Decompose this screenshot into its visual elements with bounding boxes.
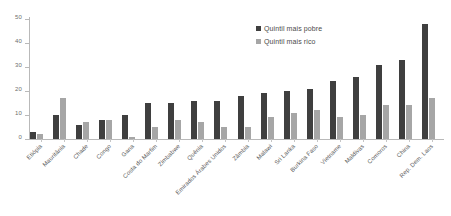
x-axis-tick-mark	[202, 139, 203, 142]
bar-quintil-mais-rico	[268, 117, 274, 139]
legend-swatch-icon	[256, 26, 261, 31]
x-axis-label: Congo	[95, 143, 112, 160]
x-axis-label: China	[396, 143, 412, 159]
bar-quintil-mais-rico	[106, 120, 112, 139]
bar-quintil-mais-pobre	[191, 101, 197, 139]
bar-quintil-mais-pobre	[145, 103, 151, 139]
legend-item: Quintil mais pobre	[256, 22, 386, 35]
bar-quintil-mais-pobre	[238, 96, 244, 139]
x-axis-tick-mark	[363, 139, 364, 142]
bar-quintil-mais-rico	[314, 110, 320, 139]
bar-quintil-mais-rico	[221, 127, 227, 139]
bar-quintil-mais-rico	[383, 105, 389, 139]
x-axis-label: Comoros	[367, 143, 389, 165]
legend-item: Quintil mais rico	[256, 35, 386, 48]
bar-quintil-mais-pobre	[261, 93, 267, 139]
bar-quintil-mais-pobre	[376, 65, 382, 139]
x-axis-tick-mark	[386, 139, 387, 142]
bar-group	[421, 14, 444, 139]
bar-quintil-mais-rico	[245, 127, 251, 139]
x-axis-tick-mark	[179, 139, 180, 142]
legend-label: Quintil mais pobre	[264, 25, 322, 32]
bar-quintil-mais-pobre	[30, 132, 36, 139]
x-axis-labels: EtiópiaMauritâniaChadeCongoGanaCosta do …	[29, 141, 444, 216]
bar-quintil-mais-pobre	[76, 125, 82, 139]
x-axis-tick-mark	[156, 139, 157, 142]
bar-group	[52, 14, 75, 139]
bar-quintil-mais-rico	[152, 127, 158, 139]
y-axis-tick-label: 40	[15, 38, 22, 44]
y-axis-tick-label: 20	[15, 86, 22, 92]
bar-quintil-mais-rico	[429, 98, 435, 139]
bar-quintil-mais-rico	[406, 105, 412, 139]
bar-quintil-mais-pobre	[214, 101, 220, 139]
x-axis-tick-mark	[409, 139, 410, 142]
x-axis-tick-mark	[110, 139, 111, 142]
bar-quintil-mais-pobre	[99, 120, 105, 139]
x-axis-tick-mark	[87, 139, 88, 142]
x-axis-label: Chade	[72, 143, 89, 160]
x-axis-label: Etiópia	[25, 143, 43, 161]
bar-quintil-mais-rico	[360, 115, 366, 139]
bar-group	[398, 14, 421, 139]
x-axis-tick-mark	[432, 139, 433, 142]
bar-quintil-mais-rico	[198, 122, 204, 139]
bar-quintil-mais-pobre	[122, 115, 128, 139]
legend-swatch-icon	[256, 39, 261, 44]
bar-group	[213, 14, 236, 139]
bar-quintil-mais-pobre	[168, 103, 174, 139]
x-axis-tick-mark	[317, 139, 318, 142]
x-axis-label: Zimbabwe	[157, 143, 181, 167]
bar-quintil-mais-pobre	[53, 115, 59, 139]
x-axis-tick-mark	[294, 139, 295, 142]
x-axis-tick-mark	[64, 139, 65, 142]
bar-quintil-mais-pobre	[330, 81, 336, 139]
x-axis-label: Zâmbia	[231, 143, 250, 162]
x-axis-label: Malawi	[255, 143, 273, 161]
x-axis-label: Gana	[120, 143, 135, 158]
bar-quintil-mais-pobre	[422, 24, 428, 139]
x-axis-tick-mark	[133, 139, 134, 142]
bar-quintil-mais-rico	[337, 117, 343, 139]
bar-group	[167, 14, 190, 139]
bar-quintil-mais-pobre	[284, 91, 290, 139]
x-axis-tick-mark	[271, 139, 272, 142]
y-axis-tick-label: 0	[18, 134, 22, 140]
x-axis-tick-mark	[340, 139, 341, 142]
y-axis-tick-label: 50	[15, 14, 22, 20]
y-axis-tick-label: 10	[15, 110, 22, 116]
y-axis-tick-label: 30	[15, 62, 22, 68]
bar-group	[98, 14, 121, 139]
bar-quintil-mais-rico	[175, 120, 181, 139]
bar-quintil-mais-pobre	[307, 89, 313, 139]
y-axis-tick-mark	[25, 139, 29, 140]
bar-group	[75, 14, 98, 139]
bar-quintil-mais-rico	[291, 113, 297, 139]
x-axis-label: Vietname	[320, 143, 343, 166]
x-axis-label: Maldivas	[344, 143, 366, 165]
bar-quintil-mais-pobre	[399, 60, 405, 139]
x-axis-label: Emirados Árabes Unidos	[174, 143, 227, 196]
chart-legend: Quintil mais pobreQuintil mais rico	[256, 22, 386, 48]
bar-quintil-mais-rico	[60, 98, 66, 139]
x-axis-line	[29, 139, 444, 140]
x-axis-label: Mauritânia	[41, 143, 66, 168]
bar-quintil-mais-pobre	[353, 77, 359, 139]
bar-group	[121, 14, 144, 139]
bar-group	[144, 14, 167, 139]
x-axis-label: Sri Lanka	[274, 143, 297, 166]
x-axis-tick-mark	[248, 139, 249, 142]
bar-chart: 01020304050 EtiópiaMauritâniaChadeCongoG…	[0, 0, 451, 216]
bar-group	[29, 14, 52, 139]
bar-quintil-mais-rico	[83, 122, 89, 139]
x-axis-tick-mark	[41, 139, 42, 142]
x-axis-label: Quênia	[186, 143, 204, 161]
legend-label: Quintil mais rico	[264, 38, 316, 45]
bar-group	[190, 14, 213, 139]
x-axis-tick-mark	[225, 139, 226, 142]
